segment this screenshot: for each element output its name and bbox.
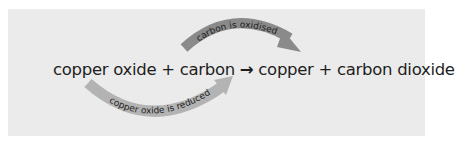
oxidation-arrow: carbon is oxidised	[184, 20, 301, 52]
product-carbon-dioxide: carbon dioxide	[337, 60, 455, 79]
reduction-label: copper oxide is reduced	[108, 87, 212, 115]
word-equation: copper oxide + carbon → copper + carbon …	[53, 60, 455, 79]
reaction-arrow-icon: →	[240, 60, 254, 79]
reduction-arrow: copper oxide is reduced	[88, 76, 233, 116]
reactant-copper-oxide: copper oxide	[53, 60, 156, 79]
product-copper: copper	[258, 60, 313, 79]
plus-sign: +	[319, 60, 333, 79]
plus-sign: +	[161, 60, 175, 79]
reactant-carbon: carbon	[180, 60, 235, 79]
